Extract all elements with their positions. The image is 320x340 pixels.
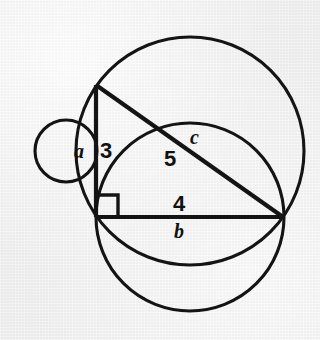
side-a-length-label: 3	[100, 140, 112, 162]
circle-on-side-a	[35, 120, 97, 182]
figure-canvas	[0, 0, 320, 340]
side-c-letter-label: c	[190, 127, 199, 147]
side-b-length-label: 4	[173, 193, 185, 215]
geometry-figure: a 3 c 5 4 b	[0, 0, 320, 340]
side-c-length-label: 5	[164, 148, 176, 170]
side-b-letter-label: b	[174, 221, 184, 241]
side-a-letter-label: a	[74, 141, 84, 161]
